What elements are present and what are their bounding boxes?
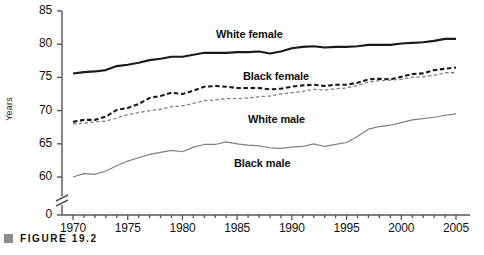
- y-tick-label-0: 0: [18, 207, 52, 221]
- series-label-white-male: White male: [248, 113, 305, 125]
- figure-caption-label: FIGURE 19.2: [20, 233, 98, 244]
- x-tick-label-1980: 1980: [159, 221, 205, 235]
- y-tick-label-80: 80: [18, 36, 52, 50]
- series-line-white-female: [73, 39, 456, 74]
- y-axis-title: Years: [4, 86, 14, 132]
- chart-plot-area: Years 8580757065600 19701975198019851990…: [0, 0, 484, 226]
- y-tick-label-75: 75: [18, 69, 52, 83]
- x-tick-label-1995: 1995: [324, 221, 370, 235]
- figure-container: Years 8580757065600 19701975198019851990…: [0, 0, 484, 255]
- y-tick-label-65: 65: [18, 136, 52, 150]
- x-tick-label-2005: 2005: [433, 221, 479, 235]
- series-label-black-female: Black female: [243, 70, 309, 82]
- y-tick-label-60: 60: [18, 169, 52, 183]
- series-label-black-male: Black male: [234, 157, 290, 169]
- x-tick-label-2000: 2000: [378, 221, 424, 235]
- square-bullet-icon: [4, 234, 13, 243]
- series-label-white-female: White female: [216, 28, 283, 40]
- x-tick-label-1985: 1985: [214, 221, 260, 235]
- y-axis-break-marks: [56, 195, 68, 206]
- x-tick-label-1975: 1975: [105, 221, 151, 235]
- figure-caption: FIGURE 19.2: [4, 233, 98, 244]
- y-tick-label-85: 85: [18, 3, 52, 17]
- x-tick-label-1990: 1990: [269, 221, 315, 235]
- y-tick-label-70: 70: [18, 103, 52, 117]
